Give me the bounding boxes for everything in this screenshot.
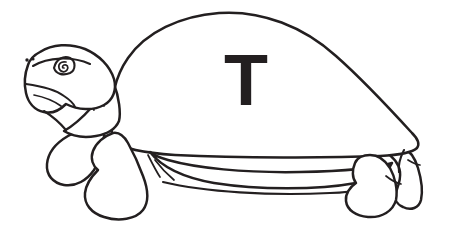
shell-letter-t: T <box>224 44 268 116</box>
head <box>25 45 115 112</box>
artwork-canvas: T <box>0 0 452 249</box>
chin-line <box>44 111 66 130</box>
nostril-icon-second <box>31 57 34 60</box>
turtle-line-drawing <box>0 0 452 249</box>
nostril-icon <box>25 58 28 61</box>
